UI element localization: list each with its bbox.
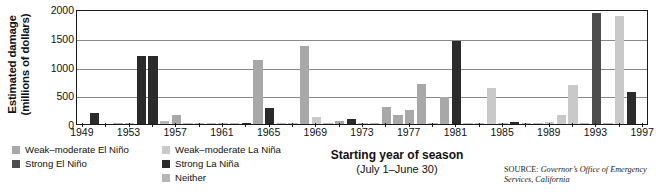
legend-label-strong-el-nino: Strong El Niño bbox=[25, 159, 87, 169]
y-axis-tick-label: 1500 bbox=[40, 34, 74, 45]
legend-swatch-strong-la-nina bbox=[162, 160, 170, 168]
x-axis-tick-label: 1997 bbox=[622, 127, 656, 138]
x-axis-tick-label: 1981 bbox=[435, 127, 475, 138]
bar bbox=[592, 13, 601, 124]
x-axis-tick-label: 1993 bbox=[575, 127, 615, 138]
bar bbox=[265, 108, 274, 124]
bar bbox=[253, 60, 262, 124]
x-axis-tick-mark bbox=[525, 123, 526, 127]
bar bbox=[277, 123, 286, 124]
legend-item-weak-moderate-el-nino: Weak–moderate El Niño bbox=[12, 145, 129, 155]
x-axis-title-line2: (July 1–June 30) bbox=[292, 162, 502, 176]
legend-label-weak-moderate-el-nino: Weak–moderate El Niño bbox=[25, 145, 129, 155]
x-axis-tick-label: 1985 bbox=[482, 127, 522, 138]
legend-swatch-weak-moderate-la-nina bbox=[162, 146, 170, 154]
x-axis-tick-label: 1973 bbox=[342, 127, 382, 138]
legend-label-weak-moderate-la-nina: Weak–moderate La Niña bbox=[175, 145, 281, 155]
bar bbox=[463, 123, 472, 124]
bar bbox=[603, 123, 612, 124]
bar bbox=[615, 16, 624, 124]
x-axis-tick-mark bbox=[432, 123, 433, 127]
x-axis-tick-label: 1957 bbox=[155, 127, 195, 138]
x-axis-tick-mark bbox=[572, 123, 573, 127]
bar bbox=[370, 123, 379, 124]
legend-item-weak-moderate-la-nina: Weak–moderate La Niña bbox=[162, 145, 281, 155]
bar bbox=[580, 123, 589, 124]
x-axis-tick-mark bbox=[105, 123, 106, 127]
x-axis-tick-mark bbox=[245, 123, 246, 127]
y-axis-ticks: 0500100015002000 bbox=[34, 0, 74, 135]
x-axis-tick-mark bbox=[339, 123, 340, 127]
bar bbox=[405, 110, 414, 124]
bar bbox=[300, 46, 309, 124]
source-label: SOURCE: bbox=[504, 165, 539, 174]
x-axis-tick-label: 1953 bbox=[109, 127, 149, 138]
bar bbox=[417, 84, 426, 124]
y-axis-title-line1: Estimated damage bbox=[6, 15, 18, 113]
legend-item-strong-el-nino: Strong El Niño bbox=[12, 159, 87, 169]
x-axis-tick-label: 1977 bbox=[389, 127, 429, 138]
x-axis-tick-mark bbox=[199, 123, 200, 127]
x-axis-tick-mark bbox=[315, 123, 316, 127]
bar bbox=[242, 123, 251, 124]
bar bbox=[113, 123, 122, 124]
y-axis-tick-label: 2000 bbox=[40, 5, 74, 16]
bar bbox=[90, 113, 99, 125]
bar bbox=[148, 56, 157, 124]
bar bbox=[568, 85, 577, 124]
bar bbox=[393, 115, 402, 124]
y-axis-title-line2: (millions of dollars) bbox=[18, 14, 30, 116]
x-axis-tick-mark bbox=[385, 123, 386, 127]
bar bbox=[557, 115, 566, 124]
x-axis-tick-mark bbox=[82, 123, 83, 127]
bar bbox=[207, 123, 216, 124]
x-axis-tick-mark bbox=[129, 123, 130, 127]
chart-legend: Weak–moderate El NiñoStrong El NiñoWeak–… bbox=[12, 145, 312, 193]
x-axis-tick-mark bbox=[642, 123, 643, 127]
legend-swatch-strong-el-nino bbox=[12, 160, 20, 168]
bar bbox=[137, 56, 146, 124]
bar bbox=[125, 123, 134, 124]
legend-item-strong-la-nina: Strong La Niña bbox=[162, 159, 239, 169]
legend-swatch-neither bbox=[162, 174, 170, 182]
bar bbox=[627, 92, 636, 124]
x-axis-tick-mark bbox=[152, 123, 153, 127]
x-axis-tick-mark bbox=[619, 123, 620, 127]
x-axis-tick-mark bbox=[269, 123, 270, 127]
x-axis-tick-mark bbox=[455, 123, 456, 127]
x-axis-tick-mark bbox=[175, 123, 176, 127]
x-axis-tick-mark bbox=[409, 123, 410, 127]
x-axis-tick-mark bbox=[502, 123, 503, 127]
x-axis-title: Starting year of season (July 1–June 30) bbox=[292, 148, 502, 176]
legend-swatch-weak-moderate-el-nino bbox=[12, 146, 20, 154]
y-axis-title: Estimated damage (millions of dollars) bbox=[6, 0, 31, 135]
x-axis-tick-label: 1969 bbox=[295, 127, 335, 138]
x-axis-tick-mark bbox=[362, 123, 363, 127]
bar bbox=[230, 123, 239, 124]
bar bbox=[382, 107, 391, 124]
legend-label-strong-la-nina: Strong La Niña bbox=[175, 159, 239, 169]
x-axis-tick-mark bbox=[222, 123, 223, 127]
legend-label-neither: Neither bbox=[175, 173, 206, 183]
bar bbox=[510, 122, 519, 124]
bar bbox=[323, 123, 332, 124]
x-axis-tick-label: 1965 bbox=[249, 127, 289, 138]
bar bbox=[183, 123, 192, 124]
bar bbox=[533, 123, 542, 124]
x-axis-tick-mark bbox=[549, 123, 550, 127]
bar bbox=[160, 121, 169, 124]
x-axis-tick-mark bbox=[595, 123, 596, 127]
x-axis-ticks: 1949195319571961196519691973197719811985… bbox=[76, 127, 648, 143]
x-axis-tick-mark bbox=[292, 123, 293, 127]
plot-area bbox=[76, 10, 648, 125]
x-axis-title-line1: Starting year of season bbox=[331, 148, 464, 162]
bar bbox=[487, 88, 496, 124]
chart-figure: Estimated damage (millions of dollars) 0… bbox=[0, 0, 656, 196]
x-axis-tick-label: 1949 bbox=[62, 127, 102, 138]
bar bbox=[440, 97, 449, 124]
bar-series bbox=[77, 11, 647, 124]
legend-item-neither: Neither bbox=[162, 173, 206, 183]
bar bbox=[347, 119, 356, 124]
y-axis-tick-label: 500 bbox=[40, 91, 74, 102]
x-axis-tick-label: 1961 bbox=[202, 127, 242, 138]
